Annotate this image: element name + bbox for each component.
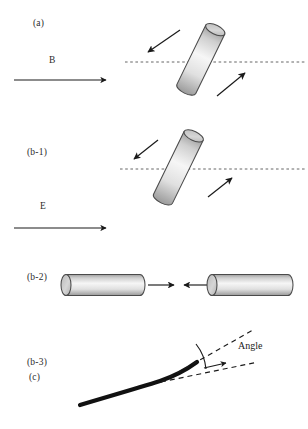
panel-b2-label: (b-2) [27,272,47,282]
panel-c-lower-dashed-guide [161,362,258,382]
panel-b1-group [14,127,305,228]
panel-a-group [14,21,305,98]
panel-b3-label: (b-3) [27,357,47,367]
panel-b1-cylinder [152,127,206,207]
panel-c-angle-arrow [204,363,226,368]
panel-c-angle-label: Angle [238,340,262,351]
panel-b1-label: (b-1) [27,147,47,157]
panel-b1-field-label: E [40,201,46,211]
panel-c-angle-arc [196,344,206,369]
panel-a-label: (a) [33,18,44,28]
panel-c-label: (c) [29,372,40,382]
panel-b2-right-cylinder-cap [207,275,217,296]
panel-b2-right-cylinder [207,275,293,296]
panel-a-field-label: B [49,55,55,65]
panel-b2-group [61,275,293,296]
panel-b1-lower-right-torque-arrow [208,178,232,197]
panel-b1-upper-left-torque-arrow [134,140,158,159]
panel-a-cylinder [175,21,227,98]
figure-canvas: (a) B (b-1) E (b-2) (b-3) (c) Angle [0,0,308,429]
panel-a-lower-right-torque-arrow [217,73,245,96]
panel-b2-left-cylinder-cap [61,275,71,296]
panel-c-filament [80,362,197,405]
panel-a-upper-left-torque-arrow [148,30,180,52]
panel-c-group [80,330,258,405]
panel-b2-left-cylinder [61,275,145,296]
